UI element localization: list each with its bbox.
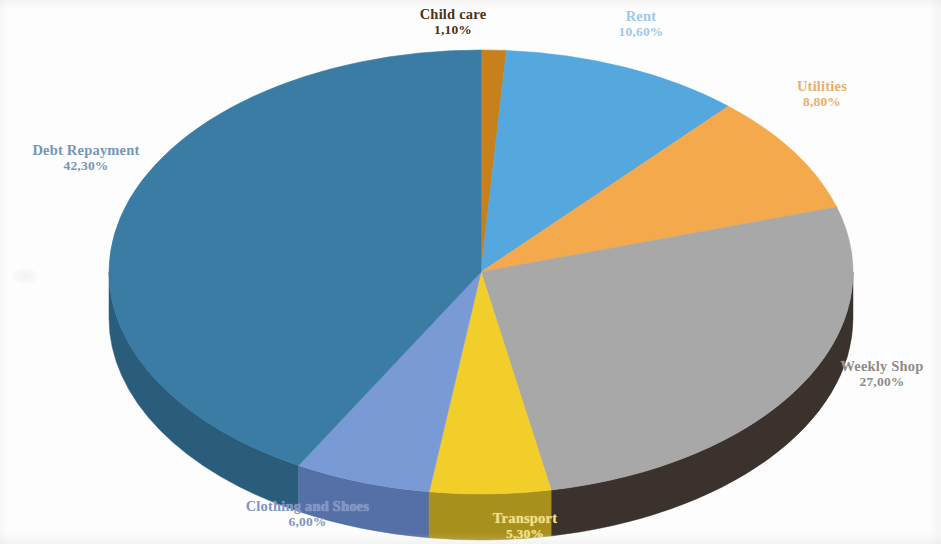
slice-label-rent-name: Rent bbox=[566, 8, 716, 24]
slice-label-rent-value: 10,60% bbox=[566, 24, 716, 39]
slice-label-utilities-name: Utilities bbox=[742, 78, 902, 94]
slice-label-weekly-shop-value: 27,00% bbox=[812, 374, 941, 389]
slice-label-transport-value: 5,30% bbox=[440, 526, 610, 541]
slice-label-clothing-and-shoes-name: Clothing and Shoes bbox=[205, 498, 410, 514]
slice-label-child-care: Child care 1,10% bbox=[369, 6, 537, 37]
slice-label-transport: Transport 5,30% bbox=[440, 510, 610, 541]
slice-label-child-care-value: 1,10% bbox=[369, 22, 537, 37]
slice-label-transport-name: Transport bbox=[440, 510, 610, 526]
slice-label-utilities-value: 8,80% bbox=[742, 94, 902, 109]
slice-label-rent: Rent 10,60% bbox=[566, 8, 716, 39]
slice-label-debt-repayment-value: 42,30% bbox=[0, 158, 176, 173]
slice-label-weekly-shop-name: Weekly Shop bbox=[812, 358, 941, 374]
slice-label-clothing-and-shoes: Clothing and Shoes 6,00% bbox=[205, 498, 410, 529]
pie-slice-tops bbox=[109, 50, 853, 494]
slice-label-weekly-shop: Weekly Shop 27,00% bbox=[812, 358, 941, 389]
pie-chart-figure: Child care 1,10% Rent 10,60% Utilities 8… bbox=[0, 0, 941, 544]
slice-label-utilities: Utilities 8,80% bbox=[742, 78, 902, 109]
slice-label-debt-repayment: Debt Repayment 42,30% bbox=[0, 142, 176, 173]
slice-label-child-care-name: Child care bbox=[369, 6, 537, 22]
slice-label-clothing-and-shoes-value: 6,00% bbox=[205, 514, 410, 529]
pie-slices-group bbox=[109, 50, 853, 540]
slice-label-debt-repayment-name: Debt Repayment bbox=[0, 142, 176, 158]
